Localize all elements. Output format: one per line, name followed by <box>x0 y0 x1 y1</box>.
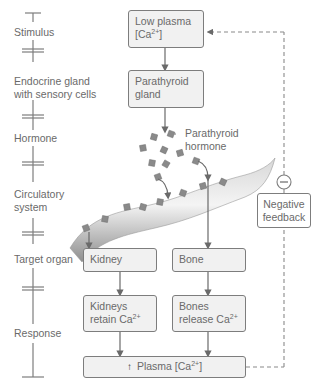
stage-endocrine-line2: with sensory cells <box>14 88 96 101</box>
parathyroid-gland-box: Parathyroid gland <box>128 70 204 108</box>
feedback-line1: Negative <box>260 198 308 211</box>
bone-response-line1: Bones <box>179 300 239 313</box>
bracket-text: ] <box>159 28 162 40</box>
plasma-calcium-result-box: ↑Plasma [Ca2+] <box>83 356 246 378</box>
negative-feedback-box: Negative feedback <box>257 193 311 228</box>
stage-endocrine-line1: Endocrine gland <box>14 75 96 88</box>
low-plasma-calcium-box: Low plasma [Ca2+] <box>128 10 204 48</box>
up-arrow-icon: ↑ <box>127 361 132 372</box>
hormone-label-line2: hormone <box>185 140 239 153</box>
charge-superscript: 2+ <box>230 313 238 320</box>
bones-release-calcium-box: Bones release Ca2+ <box>172 295 246 332</box>
kidney-response-line1: Kidneys <box>90 300 150 313</box>
retain-text: retain Ca <box>90 313 133 325</box>
kidney-response-line2: retain Ca2+ <box>90 313 150 326</box>
stage-circulatory-line2: system <box>14 201 64 214</box>
low-plasma-line2: [Ca2+] <box>135 28 197 41</box>
bone-response-line2: release Ca2+ <box>179 313 239 326</box>
release-text: release Ca <box>179 313 230 325</box>
stage-response: Response <box>14 327 61 340</box>
bracket-text: ] <box>199 360 202 372</box>
stage-hormone: Hormone <box>14 132 57 145</box>
bone-box: Bone <box>172 248 246 272</box>
gland-line1: Parathyroid <box>135 75 197 88</box>
stage-circulatory-line1: Circulatory <box>14 188 64 201</box>
stage-circulatory-system: Circulatory system <box>14 188 64 214</box>
kidneys-retain-calcium-box: Kidneys retain Ca2+ <box>83 295 157 332</box>
gland-line2: gland <box>135 88 197 101</box>
feedback-line2: feedback <box>260 211 308 224</box>
charge-superscript: 2+ <box>191 360 199 367</box>
plasma-text: Plasma [Ca <box>137 360 191 372</box>
charge-superscript: 2+ <box>133 313 141 320</box>
stage-stimulus: Stimulus <box>14 26 54 39</box>
blood-vessel <box>70 158 275 262</box>
hormone-label-line1: Parathyroid <box>185 127 239 140</box>
stage-target-organ: Target organ <box>14 253 73 266</box>
kidney-label: Kidney <box>90 253 150 266</box>
parathyroid-hormone-label: Parathyroid hormone <box>185 127 239 153</box>
low-plasma-line1: Low plasma <box>135 15 197 28</box>
bone-label: Bone <box>179 253 239 266</box>
kidney-box: Kidney <box>83 248 157 272</box>
stage-endocrine-gland: Endocrine gland with sensory cells <box>14 75 96 101</box>
ca-text: [Ca <box>135 28 151 40</box>
